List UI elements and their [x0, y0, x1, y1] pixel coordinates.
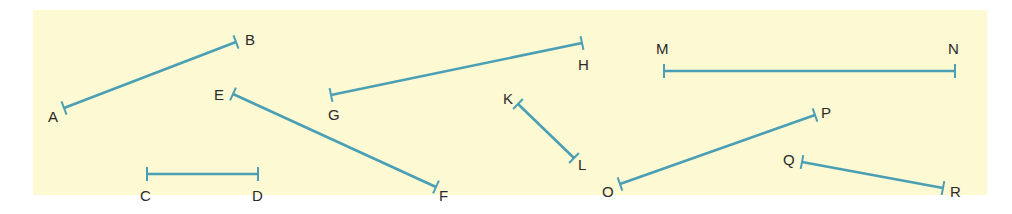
segment-kl: KL — [503, 90, 586, 173]
point-label-l: L — [578, 156, 586, 173]
point-label-o: O — [602, 183, 614, 200]
endpoint-tick — [581, 36, 584, 50]
point-label-p: P — [821, 104, 831, 121]
segment-cd: CD — [140, 167, 263, 204]
endpoint-tick — [801, 155, 804, 169]
segment-line — [331, 43, 582, 95]
segment-ef: EF — [214, 86, 448, 204]
point-label-m: M — [656, 40, 669, 57]
point-label-n: N — [948, 40, 959, 57]
point-label-c: C — [140, 187, 151, 204]
point-label-a: A — [48, 108, 58, 125]
segment-qr: QR — [783, 151, 961, 200]
segment-line — [802, 162, 943, 188]
segment-line — [64, 42, 236, 108]
point-label-r: R — [950, 183, 961, 200]
endpoint-tick — [942, 181, 945, 195]
point-label-h: H — [578, 56, 589, 73]
point-label-b: B — [245, 31, 255, 48]
segment-ab: AB — [48, 31, 255, 125]
point-label-d: D — [252, 187, 263, 204]
point-label-q: Q — [783, 151, 795, 168]
point-label-f: F — [439, 187, 448, 204]
endpoint-tick — [330, 88, 333, 102]
segment-op: OP — [602, 104, 831, 200]
point-label-g: G — [328, 106, 340, 123]
segment-line — [620, 115, 815, 184]
segment-gh: GH — [328, 36, 589, 123]
line-segments-diagram: ABCDEFGHKLMNOPQR — [0, 0, 1012, 214]
point-label-e: E — [214, 86, 224, 103]
segment-line — [518, 104, 574, 158]
segment-mn: MN — [656, 40, 959, 78]
point-label-k: K — [503, 90, 513, 107]
